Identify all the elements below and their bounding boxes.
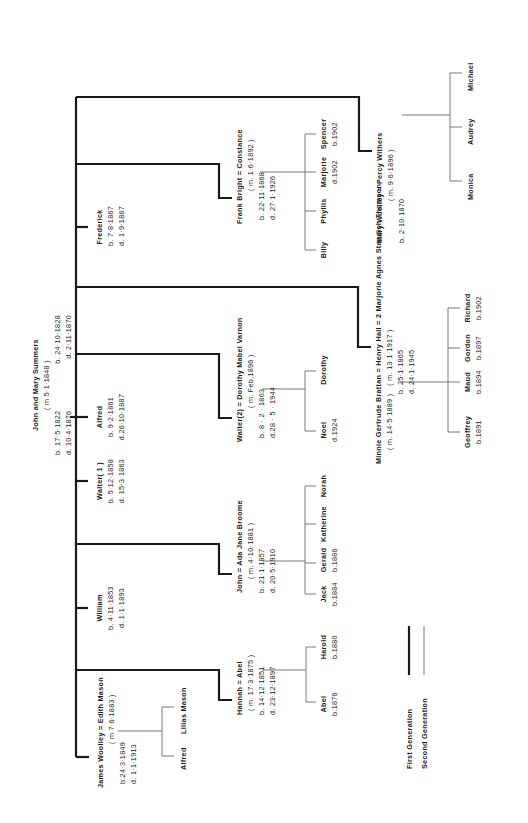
- child-lilias-mason: Lilias Mason: [178, 687, 189, 734]
- henry-marriage-1: ( m. 14·5·1889 ): [384, 394, 395, 464]
- child-katherine: Katherine: [318, 504, 329, 544]
- child-abel: Abelb.1876: [318, 684, 340, 724]
- person-alfred: Alfred b. 9·2·1861 d.26·10·1887: [94, 391, 127, 443]
- child-billy: Billy: [318, 230, 329, 270]
- couple-james-woolley-edith: James Woolley = Edith Mason ( m 7·6·1883…: [95, 668, 139, 788]
- child-alfred-woolley: Alfred: [178, 747, 189, 770]
- child-phyllis: Phyllis: [318, 191, 329, 231]
- child-harold: Haroldb.1880: [318, 627, 340, 667]
- child-gordon: Gordonb.1897: [462, 328, 484, 368]
- child-maud: Maudb.1894: [462, 362, 484, 402]
- root-mary-born: b. 24·10·1828: [52, 315, 63, 364]
- child-monica: Monica: [465, 173, 476, 200]
- branch-henry: [76, 287, 371, 347]
- root-john-died: d. 10·4·1876: [63, 411, 74, 455]
- child-spencer: Spencerb.1902: [318, 114, 340, 154]
- child-dorothy: Dorothy: [318, 350, 329, 390]
- couple-frank-bright-constance: Frank Bright = Constance ( m. 1·6·1892 )…: [234, 124, 278, 224]
- couple-hannah-abel: Hannah = Abel ( m. 17·3·1875 ) b. 14·12·…: [234, 635, 278, 715]
- person-walter1: Walter( 1 ) b. 5·12·1858 d. 15·3·1863: [94, 455, 127, 507]
- child-geoffrey: Geoffreyb.1891: [462, 412, 484, 452]
- henry-died: d. 24·1·1945: [406, 164, 417, 464]
- child-noel: Noeld.1924: [318, 410, 340, 450]
- child-gerald: Geraldb.1886: [318, 540, 340, 580]
- root-john-born: b. 17·5·1822: [52, 411, 63, 455]
- legend-second-generation: Second Generation: [419, 698, 430, 769]
- person-frederick: Frederick b. 7·8·1867 d. 1·9·1867: [94, 208, 127, 246]
- henry-born: b. 25·1·1865: [395, 164, 406, 464]
- child-norah: Norah: [318, 466, 329, 506]
- child-michael: Michael: [465, 63, 476, 91]
- root-marriage: ( m 5·1·1848 ): [41, 315, 52, 455]
- couple-walter2-dorothy: Walter(2) = Dorothy Mabel Varnon ( m. Fe…: [234, 312, 278, 442]
- person-william: William b. 4·11·1853 d. 1·1·1893: [94, 582, 127, 634]
- child-richard: Richardb.1902: [462, 288, 484, 328]
- couple-henry-hall: Minnie Gertrude Brattan = Henry Hall = 2…: [373, 164, 417, 464]
- branch-constance: [76, 164, 232, 198]
- child-audrey: Audrey: [465, 118, 476, 145]
- branch-john: [76, 544, 232, 574]
- henry-marriage-2: ( m. 13·1·1917 ): [384, 329, 395, 393]
- root-name: John and Mary Summers: [30, 315, 41, 455]
- child-jack: Jackb.1884: [318, 574, 340, 614]
- child-marjorie: Marjoried.1902: [318, 152, 340, 192]
- root-couple: John and Mary Summers ( m 5·1·1848 ) b. …: [30, 315, 74, 455]
- root-mary-died: d. 2·11·1870: [63, 315, 74, 359]
- couple-john-ada: John = Ada Jane Broome ( m. 4·10·1881 ) …: [234, 493, 278, 593]
- legend-first-generation: First Generation: [404, 709, 415, 769]
